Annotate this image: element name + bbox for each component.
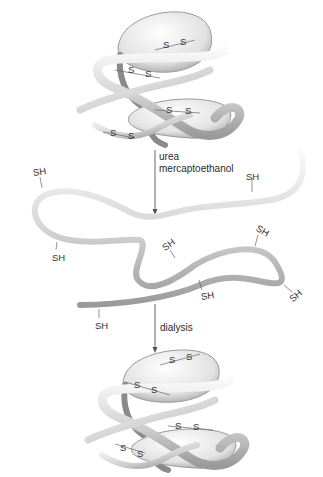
sulfhydryl-label: SH [246,172,259,182]
disulfide-label: S [128,131,134,141]
disulfide-label: S [110,128,116,138]
native-protein-top [80,12,240,145]
disulfide-label: S [134,380,140,390]
disulfide-label: S [185,106,191,116]
sulfhydryl-label: SH [32,166,46,177]
reagent-mercaptoethanol: mercaptoethanol [159,163,234,175]
disulfide-label: S [137,449,143,459]
protein-folding-diagram [0,0,323,477]
renature-step-label: dialysis [160,322,193,334]
sulfhydryl-label: SH [52,253,65,263]
sulfhydryl-label: SH [95,321,108,331]
disulfide-label: S [169,355,175,365]
sulfhydryl-label: SH [200,290,214,301]
disulfide-label: S [175,421,181,431]
disulfide-label: S [186,352,192,362]
disulfide-label: S [128,65,134,75]
disulfide-label: S [151,385,157,395]
disulfide-label: S [193,422,199,432]
disulfide-label: S [120,443,126,453]
reagent-urea: urea [159,151,234,163]
disulfide-label: S [145,69,151,79]
native-protein-bottom [88,350,245,470]
disulfide-label: S [166,105,172,115]
disulfide-label: S [163,40,169,50]
disulfide-label: S [180,37,186,47]
denature-step-label: urea mercaptoethanol [159,151,234,175]
